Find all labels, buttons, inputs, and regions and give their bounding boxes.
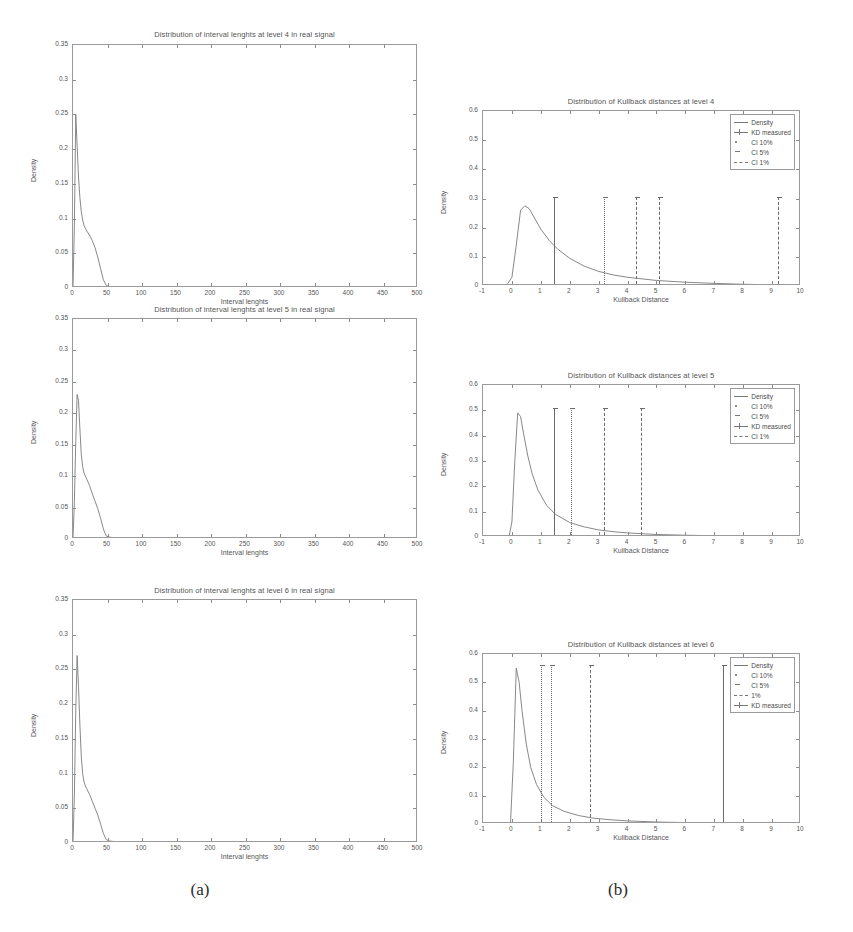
x-tick-label: 10 [786, 825, 814, 832]
x-tick-label: 1 [526, 825, 554, 832]
x-tick-mark [599, 654, 600, 657]
marker-cap [540, 665, 545, 666]
x-tick-mark [714, 819, 715, 822]
x-tick-label: 9 [757, 825, 785, 832]
x-tick-mark [628, 819, 629, 822]
x-tick-mark [656, 819, 657, 822]
legend-symbol-cross-icon [733, 701, 749, 709]
x-tick-label: 6 [670, 825, 698, 832]
x-tick-mark [570, 819, 571, 822]
legend-symbol-dot-icon [733, 671, 749, 679]
x-tick-label: -1 [468, 825, 496, 832]
legend-symbol-dashdot-icon [733, 691, 749, 699]
marker-cap [722, 665, 727, 666]
legend-item: CI 10% [733, 670, 791, 680]
marker-line-ci-5 [551, 665, 552, 822]
legend-label: CI 10% [751, 672, 772, 679]
x-tick-label: 3 [584, 825, 612, 832]
y-tick-label: 0.1 [452, 791, 478, 798]
x-tick-mark [772, 819, 773, 822]
y-tick-mark [796, 682, 799, 683]
x-tick-mark [512, 819, 513, 822]
legend-item: KD measured [733, 700, 791, 710]
x-tick-mark [628, 654, 629, 657]
y-tick-mark [796, 796, 799, 797]
legend-label: Density [751, 662, 773, 669]
marker-cap [550, 665, 555, 666]
y-tick-mark [483, 767, 486, 768]
x-tick-mark [570, 654, 571, 657]
y-tick-mark [483, 796, 486, 797]
legend-item: Density [733, 660, 791, 670]
x-tick-mark [512, 654, 513, 657]
subfigure-caption: (b) [598, 880, 638, 900]
figure-root: Distribution of interval lenghts at leve… [0, 0, 853, 932]
y-tick-label: 0.3 [452, 734, 478, 741]
legend-label: KD measured [751, 702, 791, 709]
x-tick-mark [743, 819, 744, 822]
legend-label: CI 5% [751, 682, 769, 689]
x-tick-mark [685, 819, 686, 822]
y-tick-label: 0.5 [452, 677, 478, 684]
y-tick-mark [796, 739, 799, 740]
chart-legend: DensityCI 10%CI 5%1%KD measured [730, 657, 795, 713]
y-tick-mark [796, 711, 799, 712]
chart-panel-kullback-level-6: Distribution of Kullback distances at le… [0, 0, 853, 932]
y-tick-mark [796, 767, 799, 768]
x-tick-mark [656, 654, 657, 657]
legend-symbol-dot2-icon [733, 681, 749, 689]
x-tick-mark [599, 819, 600, 822]
x-tick-label: 4 [613, 825, 641, 832]
y-tick-label: 0.6 [452, 649, 478, 656]
y-tick-label: 0.2 [452, 762, 478, 769]
x-tick-label: 7 [699, 825, 727, 832]
y-tick-mark [483, 682, 486, 683]
x-axis-label: Kullback Distance [482, 834, 800, 841]
x-tick-label: 8 [728, 825, 756, 832]
marker-line-ci-10 [541, 665, 542, 822]
x-tick-label: 5 [641, 825, 669, 832]
marker-cap [589, 665, 594, 666]
marker-line-kd-measured [723, 665, 724, 822]
legend-label: 1% [751, 692, 760, 699]
y-tick-mark [483, 711, 486, 712]
y-tick-mark [483, 739, 486, 740]
subfigure-caption: (a) [180, 880, 220, 900]
y-axis-label: Density [440, 731, 447, 754]
marker-line-1 [590, 665, 591, 822]
legend-symbol-solid-icon [733, 661, 749, 669]
chart-title: Distribution of Kullback distances at le… [482, 640, 800, 649]
legend-item: 1% [733, 690, 791, 700]
legend-item: CI 5% [733, 680, 791, 690]
x-tick-label: 0 [497, 825, 525, 832]
y-tick-label: 0.4 [452, 706, 478, 713]
x-tick-mark [714, 654, 715, 657]
plot-area: DensityCI 10%CI 5%1%KD measured [482, 653, 800, 823]
x-tick-label: 2 [555, 825, 583, 832]
x-tick-mark [685, 654, 686, 657]
x-tick-mark [541, 654, 542, 657]
